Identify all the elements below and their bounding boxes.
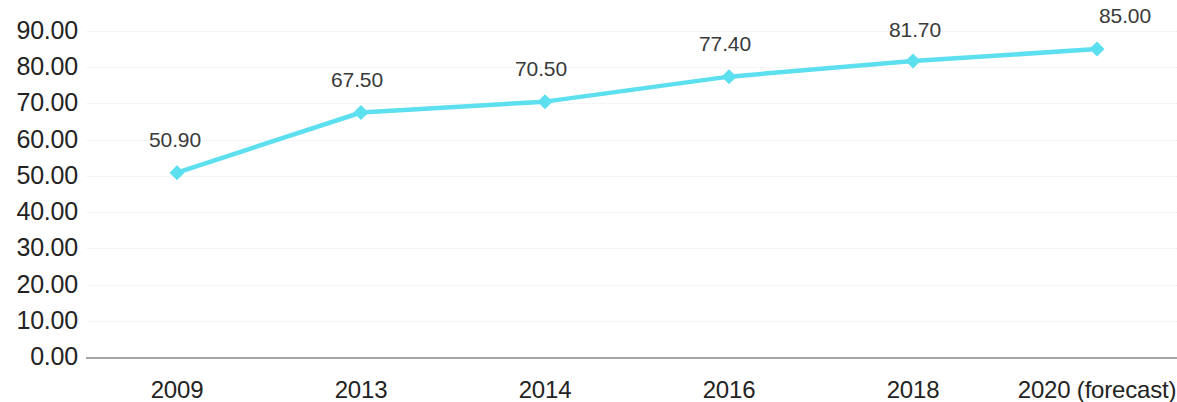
data-point-marker	[1090, 42, 1105, 57]
y-tick-label: 40.00	[0, 199, 78, 224]
y-tick-label: 0.00	[0, 344, 78, 369]
data-point-marker	[906, 54, 921, 69]
data-point-marker	[538, 94, 553, 109]
data-point-label: 85.00	[1099, 5, 1151, 26]
data-point-label: 70.50	[515, 58, 567, 79]
y-tick-label: 50.00	[0, 163, 78, 188]
series-line	[177, 49, 1097, 173]
series-markers	[170, 42, 1105, 181]
y-tick-label: 70.00	[0, 90, 78, 115]
data-point-label: 77.40	[699, 33, 751, 54]
y-tick-label: 20.00	[0, 272, 78, 297]
data-point-marker	[170, 165, 185, 180]
data-point-label: 81.70	[889, 19, 941, 40]
y-tick-label: 80.00	[0, 54, 78, 79]
y-tick-label: 10.00	[0, 308, 78, 333]
data-point-label: 67.50	[331, 69, 383, 90]
line-chart: 90.0080.0070.0060.0050.0040.0030.0020.00…	[0, 0, 1177, 402]
data-point-marker	[354, 105, 369, 120]
y-tick-label: 30.00	[0, 235, 78, 260]
series-line-group	[86, 0, 1177, 402]
y-tick-label: 60.00	[0, 127, 78, 152]
y-axis: 90.0080.0070.0060.0050.0040.0030.0020.00…	[0, 0, 86, 402]
plot-area: 50.9067.5070.5077.4081.7085.00	[86, 0, 1177, 402]
data-point-label: 50.90	[149, 129, 201, 150]
y-tick-label: 90.00	[0, 18, 78, 43]
data-point-marker	[722, 69, 737, 84]
